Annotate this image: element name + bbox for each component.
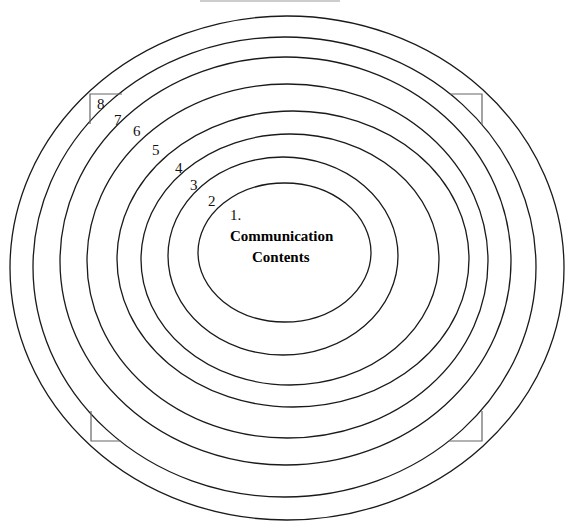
center-title-line1: Communication [230,229,333,244]
layer-label-5: 5 [152,143,160,158]
layer-label-6: 6 [133,124,141,139]
corner-mark-bottom-left [91,411,121,441]
layer-label-8: 8 [97,97,105,112]
center-title-line2: Contents [252,250,310,265]
layer-label-2: 2 [208,194,216,209]
layer-label-4: 4 [175,161,183,176]
layer-label-3: 3 [190,178,198,193]
layer-label-7: 7 [114,113,122,128]
corner-mark-top-right [450,94,482,125]
ring-8 [10,16,564,520]
center-number: 1. [230,208,241,223]
ring-7 [33,37,536,497]
